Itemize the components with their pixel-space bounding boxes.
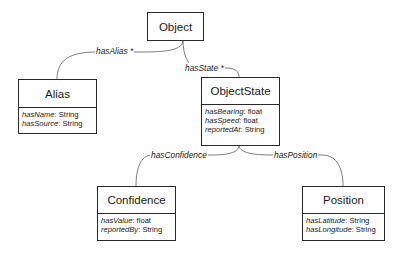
attribute-name: hasSource — [22, 119, 58, 128]
attribute-name: hasBearing — [205, 107, 243, 116]
class-name: Alias — [19, 80, 96, 107]
relation-label-has-state: hasState * — [184, 63, 225, 73]
class-name: Position — [303, 187, 384, 213]
attribute-row: hasLongitude: String — [306, 225, 381, 234]
attribute-row: hasValue: float — [101, 216, 172, 225]
class-confidence: Confidence hasValue: float reportedBy: S… — [97, 186, 176, 241]
attribute-type: : float — [132, 216, 151, 225]
class-object: Object — [147, 12, 204, 41]
attribute-type: : String — [352, 225, 376, 234]
attribute-name: hasSpeed — [205, 116, 239, 125]
attribute-row: reportedAt: String — [205, 125, 276, 134]
attribute-name: hasLongitude — [306, 225, 352, 234]
attribute-list: hasValue: float reportedBy: String — [98, 213, 175, 236]
class-name: Confidence — [98, 187, 175, 213]
attribute-name: reportedBy — [101, 225, 138, 234]
attribute-name: hasLatitude — [306, 216, 345, 225]
relation-label-has-alias: hasAlias * — [95, 46, 134, 56]
attribute-name: reportedAt — [205, 125, 240, 134]
attribute-name: hasName — [22, 110, 55, 119]
attribute-type: : String — [240, 125, 264, 134]
attribute-type: : String — [58, 119, 82, 128]
attribute-name: hasValue — [101, 216, 132, 225]
attribute-type: : String — [55, 110, 79, 119]
class-alias: Alias hasName: String hasSource: String — [18, 79, 97, 134]
attribute-list: hasName: String hasSource: String — [19, 107, 96, 130]
class-name: ObjectState — [202, 78, 279, 104]
class-name: Object — [148, 13, 203, 40]
attribute-row: hasBearing: float — [205, 107, 276, 116]
attribute-row: hasLatitude: String — [306, 216, 381, 225]
attribute-type: : String — [138, 225, 162, 234]
attribute-list: hasLatitude: String hasLongitude: String — [303, 213, 384, 236]
attribute-row: hasName: String — [22, 110, 93, 119]
attribute-type: : float — [243, 107, 262, 116]
class-objectstate: ObjectState hasBearing: float hasSpeed: … — [201, 77, 280, 146]
attribute-list: hasBearing: float hasSpeed: float report… — [202, 104, 279, 137]
attribute-row: reportedBy: String — [101, 225, 172, 234]
attribute-type: : float — [239, 116, 258, 125]
attribute-row: hasSpeed: float — [205, 116, 276, 125]
relation-label-has-position: hasPosition — [273, 150, 318, 160]
relation-label-has-confidence: hasConfidence — [150, 150, 208, 160]
attribute-type: : String — [345, 216, 369, 225]
class-position: Position hasLatitude: String hasLongitud… — [302, 186, 385, 241]
attribute-row: hasSource: String — [22, 119, 93, 128]
